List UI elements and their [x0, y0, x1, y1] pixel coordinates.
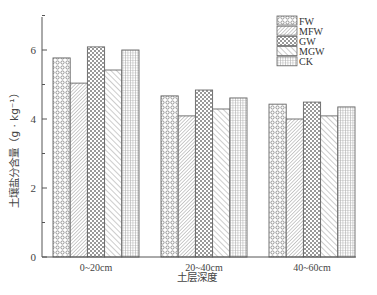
bar-group: 40~60cm [269, 102, 355, 273]
bar-mgw [213, 109, 230, 257]
y-axis-title: 土壤盐分含量（g · kg⁻¹） [8, 88, 20, 207]
bar-ck [230, 98, 247, 257]
bar-fw [53, 58, 70, 257]
bar-fw [161, 96, 178, 257]
bar-mgw [321, 116, 338, 257]
y-tick-label: 2 [31, 182, 37, 194]
legend-swatch [277, 26, 297, 35]
bar-mgw [105, 70, 122, 257]
bar-ck [122, 50, 139, 257]
y-tick-label: 0 [31, 251, 37, 263]
bar-gw [87, 47, 104, 257]
legend-item-ck: CK [277, 56, 314, 67]
x-tick-label: 0~20cm [80, 262, 113, 273]
legend-swatch [277, 57, 297, 66]
legend-swatch [277, 16, 297, 25]
bar-group: 20~40cm [161, 90, 247, 273]
bar-gw [195, 90, 212, 257]
bar-gw [303, 102, 320, 257]
legend-label: CK [299, 56, 314, 67]
bar-group: 0~20cm [53, 47, 139, 273]
y-tick-label: 6 [31, 44, 37, 56]
bar-mfw [286, 119, 303, 257]
legend: FWMFWGWMGWCK [277, 16, 325, 68]
bar-ck [338, 107, 355, 257]
x-tick-label: 40~60cm [293, 262, 331, 273]
x-axis-title: 土层深度 [177, 271, 218, 283]
legend-swatch [277, 36, 297, 45]
bar-mfw [178, 116, 195, 257]
bar-chart: 0~20cm20~40cm40~60cm 0246 FWMFWGWMGWCK 土… [0, 0, 377, 295]
bar-fw [269, 104, 286, 257]
bars-layer: 0~20cm20~40cm40~60cm [53, 47, 355, 273]
bar-mfw [70, 83, 87, 257]
legend-swatch [277, 47, 297, 56]
y-tick-label: 4 [31, 113, 37, 125]
